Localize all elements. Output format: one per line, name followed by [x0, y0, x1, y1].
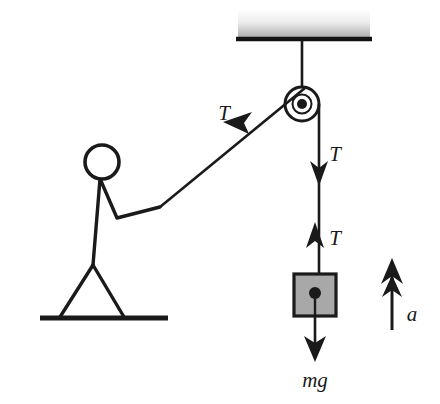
label-tension-block-up: T — [329, 226, 342, 250]
ceiling-block — [238, 10, 370, 37]
ceiling-support — [236, 10, 372, 39]
person-arm — [101, 181, 160, 218]
label-tension-person: T — [218, 101, 231, 125]
person-head — [85, 145, 119, 179]
tension-arrowhead-up — [306, 222, 324, 248]
label-acceleration-a: a — [407, 302, 418, 326]
physics-diagram-figure: T T T mg a — [0, 0, 440, 404]
stick-figure-person — [60, 145, 160, 317]
hanging-block — [294, 274, 336, 316]
weight-force-arrow — [304, 316, 326, 362]
pulley-hub-dot — [297, 99, 307, 109]
rope-angled-line — [160, 88, 305, 207]
label-tension-pulley-down: T — [329, 142, 342, 166]
rope-segment-person-to-pulley — [160, 88, 305, 207]
label-weight-mg: mg — [302, 368, 328, 392]
rope-segment-pulley-to-block — [306, 104, 328, 274]
person-front-leg — [93, 265, 124, 317]
person-back-leg — [60, 265, 93, 317]
acceleration-arrow — [381, 258, 403, 330]
person-torso — [93, 179, 100, 265]
physics-diagram-canvas: T T T mg a — [0, 0, 440, 404]
